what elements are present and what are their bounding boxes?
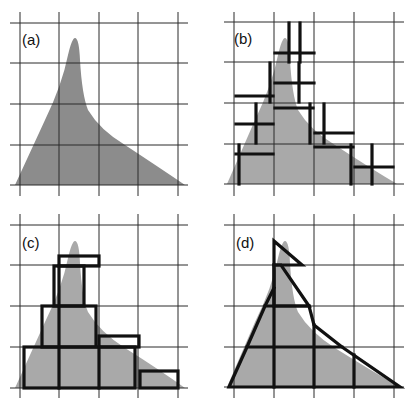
panel-a: (a) — [10, 12, 188, 196]
panel-b: (b) — [224, 12, 404, 196]
panel-label: (b) — [234, 30, 252, 47]
panel-d: (d) — [224, 214, 404, 398]
panel-c: (c) — [10, 214, 188, 398]
distribution-shape — [15, 38, 185, 185]
panel-label: (c) — [22, 234, 40, 251]
panel-label: (a) — [22, 31, 40, 48]
panel-label: (d) — [236, 234, 254, 251]
figure-canvas: (a) — [0, 0, 414, 402]
